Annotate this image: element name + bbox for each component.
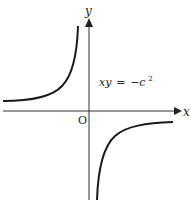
curve-upper-left-branch <box>3 26 78 101</box>
equation-label: xy = −c 2 <box>99 75 153 89</box>
equation-exponent: 2 <box>148 75 152 83</box>
equation-rhs: −c <box>130 76 145 89</box>
y-axis-arrow-icon <box>85 18 93 27</box>
x-axis-label: x <box>183 105 190 119</box>
origin-label: O <box>78 114 87 127</box>
curve-lower-right-branch <box>97 122 173 200</box>
equation-equals: = <box>116 76 125 89</box>
equation-lhs: xy <box>99 76 112 89</box>
hyperbola-diagram: y x O xy = −c 2 <box>0 0 191 207</box>
y-axis-label: y <box>84 4 92 18</box>
x-axis-arrow-icon <box>174 107 182 115</box>
